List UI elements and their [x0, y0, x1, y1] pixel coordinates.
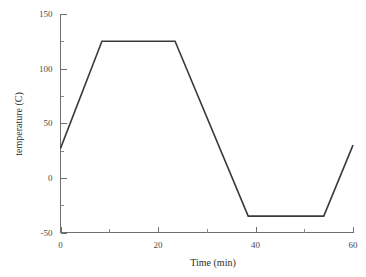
data-series-line: [61, 41, 354, 216]
x-axis-tick-labels: 0204060: [58, 240, 358, 250]
x-axis-ticks: [62, 227, 354, 233]
y-axis-ticks: [61, 15, 67, 234]
x-tick-label: 40: [251, 240, 261, 250]
y-axis-tick-labels: -50050100150: [39, 9, 53, 238]
y-tick-label: 150: [39, 9, 53, 19]
x-tick-label: 0: [58, 240, 63, 250]
chart-figure: -50050100150 0204060 temperature (C) Tim…: [0, 0, 366, 277]
y-axis-title: temperature (C): [13, 92, 25, 156]
chart-plot-area: -50050100150 0204060 temperature (C) Tim…: [0, 0, 366, 277]
y-tick-label: 0: [48, 173, 53, 183]
x-axis-title: Time (min): [190, 257, 235, 269]
data-series-group: [61, 41, 354, 216]
y-tick-label: -50: [41, 228, 53, 238]
y-tick-label: 100: [39, 64, 53, 74]
y-tick-label: 50: [44, 118, 54, 128]
x-tick-label: 20: [154, 240, 164, 250]
x-tick-label: 60: [349, 240, 359, 250]
